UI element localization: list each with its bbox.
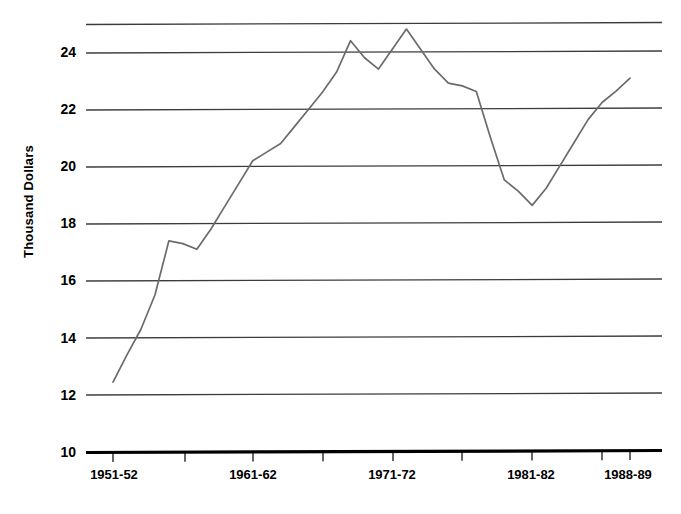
gridline-22 [86,108,662,110]
gridline-12 [86,393,662,395]
data-series-line [113,29,630,382]
gridline-18 [86,222,662,224]
line-chart: Thousand Dollars 24 22 20 18 16 14 12 10… [0,0,681,514]
gridline-20 [86,165,662,167]
gridlines [86,23,662,396]
gridline-16 [86,279,662,281]
gridline-24 [86,51,662,53]
x-axis-line [86,451,662,453]
plot-area [0,0,681,514]
gridline-14 [86,336,662,338]
gridline-25 [86,23,662,25]
